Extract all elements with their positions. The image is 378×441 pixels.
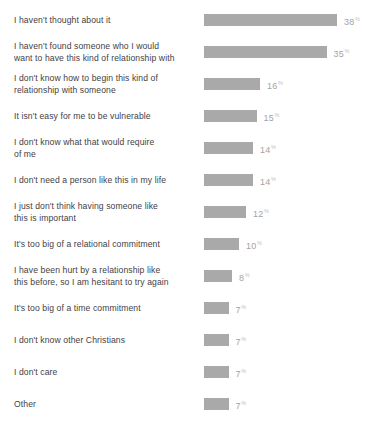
bar-track: 12% bbox=[204, 196, 269, 228]
horizontal-bar-chart: I haven't thought about it38%I haven't f… bbox=[0, 0, 378, 441]
bar-track: 7% bbox=[204, 356, 246, 388]
bar-category-label: I haven't thought about it bbox=[14, 14, 196, 26]
bar-value-label: 8% bbox=[239, 269, 250, 284]
bar-value-number: 7 bbox=[236, 305, 241, 315]
bar-value-label: 10% bbox=[246, 237, 262, 252]
bar-track: 15% bbox=[204, 100, 280, 132]
bar-value-number: 15 bbox=[264, 113, 274, 123]
bar bbox=[204, 46, 327, 58]
bar bbox=[204, 206, 246, 218]
bar-row: It's too big of a relational commitment1… bbox=[0, 228, 378, 260]
bar bbox=[204, 238, 239, 250]
bar-row: I don't know other Christians7% bbox=[0, 324, 378, 356]
percent-sign: % bbox=[355, 16, 360, 22]
bar-track: 7% bbox=[204, 324, 246, 356]
bar-value-number: 8 bbox=[239, 273, 244, 283]
bar-category-label: I have been hurt by a relationship like … bbox=[14, 264, 196, 288]
bar bbox=[204, 110, 257, 122]
bar-value-label: 38% bbox=[344, 13, 360, 28]
bar-track: 38% bbox=[204, 4, 360, 36]
bar-value-number: 38 bbox=[344, 17, 354, 27]
percent-sign: % bbox=[241, 368, 246, 374]
bar-track: 7% bbox=[204, 388, 246, 420]
bar-row: It isn't easy for me to be vulnerable15% bbox=[0, 100, 378, 132]
bar-row: Other7% bbox=[0, 388, 378, 420]
bar-value-label: 12% bbox=[253, 205, 269, 220]
bar-value-number: 7 bbox=[236, 369, 241, 379]
bar-value-label: 7% bbox=[236, 333, 247, 348]
bar bbox=[204, 78, 260, 90]
bar-category-label: I don't know what that would require of … bbox=[14, 136, 196, 160]
bar-track: 14% bbox=[204, 164, 276, 196]
bar-category-label: I don't know other Christians bbox=[14, 334, 196, 346]
percent-sign: % bbox=[274, 112, 279, 118]
bar-row: I don't care7% bbox=[0, 356, 378, 388]
bar-value-number: 12 bbox=[253, 209, 263, 219]
bar-value-label: 14% bbox=[260, 141, 276, 156]
bar-row: It's too big of a time commitment7% bbox=[0, 292, 378, 324]
bar-value-label: 35% bbox=[334, 45, 350, 60]
percent-sign: % bbox=[241, 400, 246, 406]
bar-value-label: 7% bbox=[236, 365, 247, 380]
bar-category-label: It isn't easy for me to be vulnerable bbox=[14, 110, 196, 122]
bar bbox=[204, 14, 337, 26]
percent-sign: % bbox=[241, 336, 246, 342]
bar-value-number: 7 bbox=[236, 401, 241, 411]
bar-track: 35% bbox=[204, 36, 350, 68]
bar bbox=[204, 398, 229, 410]
bar-value-label: 16% bbox=[267, 77, 283, 92]
bar bbox=[204, 366, 229, 378]
bar-category-label: I don't care bbox=[14, 366, 196, 378]
percent-sign: % bbox=[278, 80, 283, 86]
bar-row: I don't need a person like this in my li… bbox=[0, 164, 378, 196]
bar-value-label: 14% bbox=[260, 173, 276, 188]
bar-value-number: 35 bbox=[334, 49, 344, 59]
bar-row: I haven't found someone who I would want… bbox=[0, 36, 378, 68]
bar-value-number: 7 bbox=[236, 337, 241, 347]
bar bbox=[204, 302, 229, 314]
bar-category-label: It's too big of a time commitment bbox=[14, 302, 196, 314]
bar-value-label: 7% bbox=[236, 397, 247, 412]
bar bbox=[204, 334, 229, 346]
bar-track: 8% bbox=[204, 260, 250, 292]
percent-sign: % bbox=[241, 304, 246, 310]
bar-row: I just don't think having someone like t… bbox=[0, 196, 378, 228]
percent-sign: % bbox=[344, 48, 349, 54]
bar-track: 16% bbox=[204, 68, 283, 100]
bar-value-label: 7% bbox=[236, 301, 247, 316]
bar-value-number: 16 bbox=[267, 81, 277, 91]
bar-track: 10% bbox=[204, 228, 262, 260]
bar bbox=[204, 270, 232, 282]
bar-row: I have been hurt by a relationship like … bbox=[0, 260, 378, 292]
bar bbox=[204, 142, 253, 154]
bar-row: I don't know how to begin this kind of r… bbox=[0, 68, 378, 100]
percent-sign: % bbox=[271, 144, 276, 150]
bar-category-label: I just don't think having someone like t… bbox=[14, 200, 196, 224]
bar-track: 14% bbox=[204, 132, 276, 164]
bar-value-number: 10 bbox=[246, 241, 256, 251]
bar-value-label: 15% bbox=[264, 109, 280, 124]
bar-category-label: I don't know how to begin this kind of r… bbox=[14, 72, 196, 96]
bar-category-label: It's too big of a relational commitment bbox=[14, 238, 196, 250]
percent-sign: % bbox=[245, 272, 250, 278]
percent-sign: % bbox=[271, 176, 276, 182]
bar-value-number: 14 bbox=[260, 177, 270, 187]
bar-category-label: Other bbox=[14, 398, 196, 410]
bar-row: I don't know what that would require of … bbox=[0, 132, 378, 164]
bar-value-number: 14 bbox=[260, 145, 270, 155]
bar-track: 7% bbox=[204, 292, 246, 324]
percent-sign: % bbox=[264, 208, 269, 214]
bar-category-label: I don't need a person like this in my li… bbox=[14, 174, 196, 186]
bar-row: I haven't thought about it38% bbox=[0, 4, 378, 36]
bar bbox=[204, 174, 253, 186]
bar-category-label: I haven't found someone who I would want… bbox=[14, 40, 196, 64]
percent-sign: % bbox=[257, 240, 262, 246]
